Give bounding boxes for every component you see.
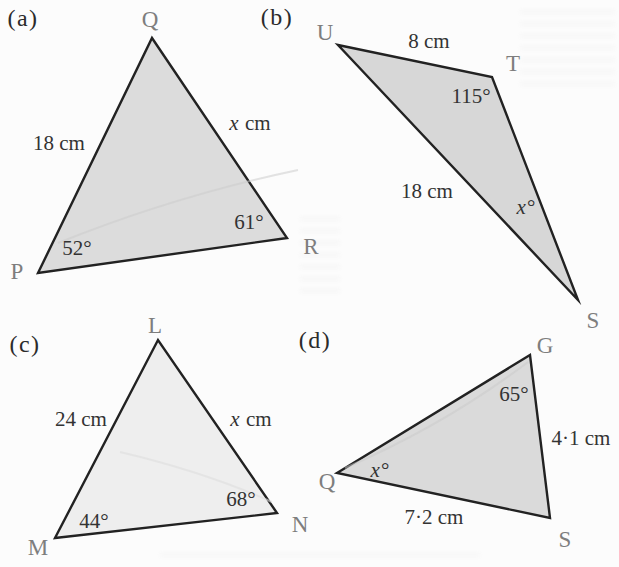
vertex-label-a-Q: Q [142,8,159,31]
vertex-label-a-P: P [11,260,24,283]
variable-x: x [371,458,380,482]
vertex-label-b-T: T [506,52,520,75]
unit-degree: ° [381,458,389,482]
triangle-d-shape [337,355,550,518]
side-label-a-QR: xcm [229,113,270,134]
vertex-label-c-M: M [28,536,48,559]
unit-cm: cm [245,111,271,135]
vertex-label-a-R: R [303,235,318,258]
vertex-label-d-G: G [537,334,554,357]
vertex-label-b-S: S [587,309,600,332]
vertex-label-d-S: S [559,528,572,551]
angle-label-a-R: 61° [234,212,263,233]
side-label-c-ML: 24 cm [55,409,107,430]
side-label-a-PQ: 18 cm [33,133,85,154]
side-label-b-UT: 8 cm [408,31,449,52]
angle-label-b-T: 115° [451,86,490,107]
part-label-a: (a) [7,6,38,30]
angle-label-c-M: 44° [79,511,108,532]
part-label-d: (d) [299,328,331,352]
variable-x: x [229,111,238,135]
angle-label-c-N: 68° [226,489,255,510]
vertex-label-c-N: N [292,513,309,536]
vertex-label-c-L: L [148,314,162,337]
side-label-c-LN: xcm [230,409,271,430]
triangles-canvas [0,0,619,567]
variable-x: x [230,407,239,431]
angle-label-d-G: 65° [499,384,528,405]
vertex-label-d-Q: Q [319,470,336,493]
side-label-b-US: 18 cm [401,181,453,202]
side-label-d-QS: 7·2 cm [405,507,464,528]
vertex-label-b-U: U [317,21,334,44]
part-label-b: (b) [261,5,293,29]
part-label-c: (c) [9,332,40,356]
angle-label-b-S: x° [517,197,536,218]
side-label-d-GS: 4·1 cm [552,428,611,449]
unit-cm: cm [246,407,272,431]
unit-degree: ° [527,195,535,219]
triangle-exercise-figure: (a) (b) (c) (d) Q P R 18 cm xcm 52° 61° … [0,0,619,567]
variable-x: x [517,195,526,219]
angle-label-d-Q: x° [371,460,390,481]
angle-label-a-P: 52° [62,238,91,259]
